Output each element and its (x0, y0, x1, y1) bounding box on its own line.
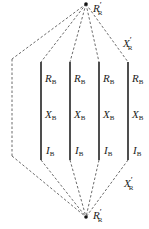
bottom-node-label: R′R (92, 207, 103, 224)
top-node-label: R′R (92, 0, 103, 17)
bottom-right-x-label: X′R (123, 175, 134, 192)
branch-3-labels: RB XB IB (102, 72, 115, 158)
top-right-x-label: X′R (122, 35, 133, 52)
svg-text:RB: RB (102, 72, 115, 86)
top-dashed-lines (12, 4, 128, 62)
branch-1-labels: RB XB IB (44, 72, 57, 158)
svg-text:XB: XB (73, 108, 86, 122)
branch-4-labels: RB XB IB (131, 72, 144, 158)
bottom-dashed-lines (12, 156, 128, 217)
svg-text:XB: XB (102, 108, 115, 122)
svg-text:IB: IB (132, 144, 142, 158)
svg-text:XB: XB (44, 108, 57, 122)
svg-text:RB: RB (131, 72, 144, 86)
top-node-dot (84, 2, 88, 6)
svg-text:RB: RB (44, 72, 57, 86)
bottom-node-dot (84, 215, 88, 219)
branch-bars (41, 62, 128, 160)
svg-text:IB: IB (103, 144, 113, 158)
svg-text:RB: RB (73, 72, 86, 86)
svg-text:IB: IB (45, 144, 55, 158)
svg-text:XB: XB (131, 108, 144, 122)
svg-text:IB: IB (74, 144, 84, 158)
branch-diagram: R′R X′R X′R R′R RB XB IB RB XB IB RB XB … (0, 0, 149, 229)
branch-2-labels: RB XB IB (73, 72, 86, 158)
